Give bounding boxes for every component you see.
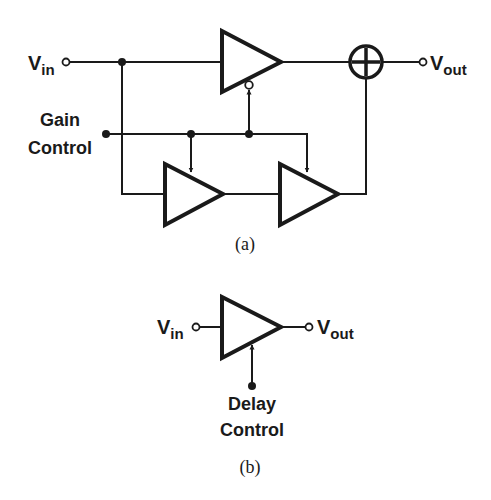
vin-port-b (193, 324, 200, 331)
delay-control-terminal (248, 382, 256, 390)
feedforward-wire (338, 78, 366, 194)
path-amplifier-1 (165, 164, 223, 225)
caption-b: (b) (240, 457, 261, 478)
lower-path-wire (122, 62, 165, 194)
vin-port-a (63, 59, 70, 66)
vout-port-a (420, 59, 427, 66)
figure-a: Vin Vout Gain Control (28, 31, 467, 255)
vin-label-b: Vin (157, 316, 184, 342)
vin-label-a: Vin (28, 52, 55, 78)
summer-node (350, 46, 382, 78)
path-amplifier-2 (280, 164, 338, 225)
delay-control-label-line2: Control (220, 420, 284, 440)
delay-control-label-line1: Delay (228, 394, 276, 414)
gain-control-label-line2: Control (28, 138, 92, 158)
figure-b: Vin Vout Delay Control (b) (157, 297, 354, 478)
caption-a: (a) (235, 234, 255, 255)
vout-label-a: Vout (430, 52, 467, 78)
vout-label-b: Vout (317, 316, 354, 342)
diagram-canvas: Vin Vout Gain Control (0, 0, 491, 500)
inversion-bubble (245, 81, 253, 89)
vout-port-b (306, 324, 313, 331)
gain-control-label-line1: Gain (40, 110, 80, 130)
